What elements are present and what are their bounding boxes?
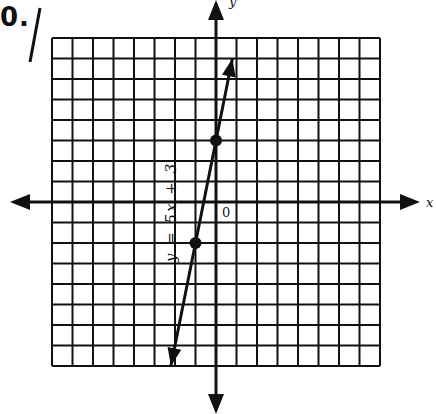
- equation-label: y = 5x + 3: [162, 162, 180, 262]
- coordinate-plane: [0, 0, 436, 414]
- line-arrow-icon: [222, 59, 236, 78]
- plotted-point: [190, 237, 202, 249]
- arrow-down-icon: [208, 394, 224, 414]
- arrow-right-icon: [400, 194, 420, 210]
- slash-mark: [30, 8, 40, 62]
- arrow-up-icon: [208, 0, 224, 20]
- x-axis-label: x: [426, 195, 433, 210]
- arrow-left-icon: [10, 194, 30, 210]
- plotted-point: [210, 135, 222, 147]
- origin-label: 0: [222, 205, 230, 220]
- y-axis-label: y: [229, 0, 236, 9]
